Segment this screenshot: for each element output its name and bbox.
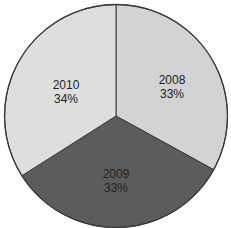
- slice-label-2010-year: 2010: [53, 78, 80, 92]
- slice-label-2009-percent: 33%: [104, 181, 128, 195]
- pie-chart: 2008 33% 2009 33% 2010 34%: [0, 0, 231, 228]
- slice-label-2010-percent: 34%: [54, 92, 78, 106]
- slice-label-2009-year: 2009: [103, 167, 130, 181]
- slice-label-2008-year: 2008: [159, 73, 186, 87]
- slice-label-2008-percent: 33%: [160, 87, 184, 101]
